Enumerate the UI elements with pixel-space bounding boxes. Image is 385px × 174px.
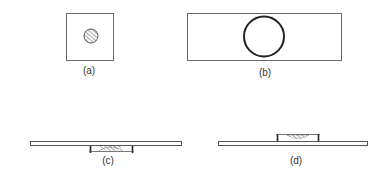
panel-d: (d)	[219, 134, 368, 166]
rectangular-slide	[188, 14, 342, 61]
panel-a-label: (a)	[83, 65, 95, 76]
panel-c-label: (c)	[102, 155, 114, 166]
slide-side-view	[31, 142, 182, 146]
panel-d-label: (d)	[290, 155, 302, 166]
panel-b: (b)	[188, 14, 342, 79]
open-circle	[244, 17, 284, 57]
drop	[287, 135, 309, 139]
hatched-specimen	[84, 29, 98, 43]
panel-b-label: (b)	[259, 67, 271, 78]
slide-side-view	[219, 142, 368, 146]
diagram-canvas: (a) (b) (c) (d)	[0, 0, 385, 174]
panel-c: (c)	[31, 142, 182, 167]
panel-a: (a)	[67, 14, 114, 77]
